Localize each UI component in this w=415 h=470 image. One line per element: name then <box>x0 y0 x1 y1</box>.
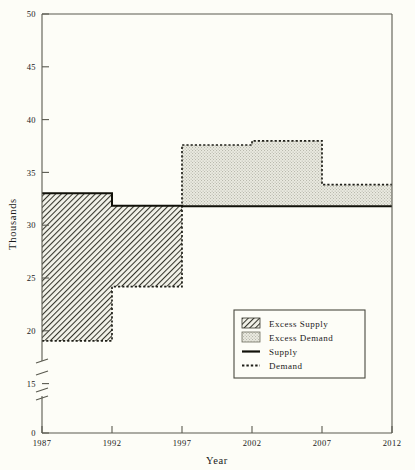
x-tick-label: 2012 <box>383 438 402 448</box>
y-tick-label: 40 <box>27 115 36 125</box>
chart-legend: Excess Supply Excess Demand Supply Deman… <box>234 310 365 378</box>
y-axis-tick-labels: 50 45 40 35 30 25 20 15 0 <box>27 9 36 438</box>
y-tick-label: 30 <box>27 220 36 230</box>
y-tick-label: 50 <box>27 9 36 19</box>
y-tick-label: 0 <box>31 428 36 438</box>
chart-container: 50 45 40 35 30 25 20 15 0 1987 1992 1997… <box>0 0 415 470</box>
y-tick-label: 35 <box>27 168 36 178</box>
y-tick-label: 20 <box>27 326 36 336</box>
x-tick-label: 1987 <box>33 438 52 448</box>
legend-swatch-excess-supply <box>242 318 260 328</box>
excess-supply-demand-chart: 50 45 40 35 30 25 20 15 0 1987 1992 1997… <box>0 0 415 470</box>
x-tick-label: 1997 <box>173 438 192 448</box>
legend-swatch-excess-demand <box>242 332 260 342</box>
legend-label-supply: Supply <box>269 347 298 357</box>
y-tick-label: 25 <box>27 273 36 283</box>
y-axis-title: Thousands <box>7 198 18 250</box>
x-tick-label: 1992 <box>103 438 122 448</box>
x-tick-label: 2002 <box>243 438 262 448</box>
x-axis-title: Year <box>206 455 228 466</box>
legend-label-excess-supply: Excess Supply <box>269 319 328 329</box>
legend-label-excess-demand: Excess Demand <box>269 333 333 343</box>
y-tick-label: 15 <box>27 379 36 389</box>
y-tick-label: 45 <box>27 62 36 72</box>
x-tick-label: 2007 <box>313 438 332 448</box>
x-axis-tick-labels: 1987 1992 1997 2002 2007 2012 <box>33 438 402 448</box>
legend-label-demand: Demand <box>269 361 303 371</box>
